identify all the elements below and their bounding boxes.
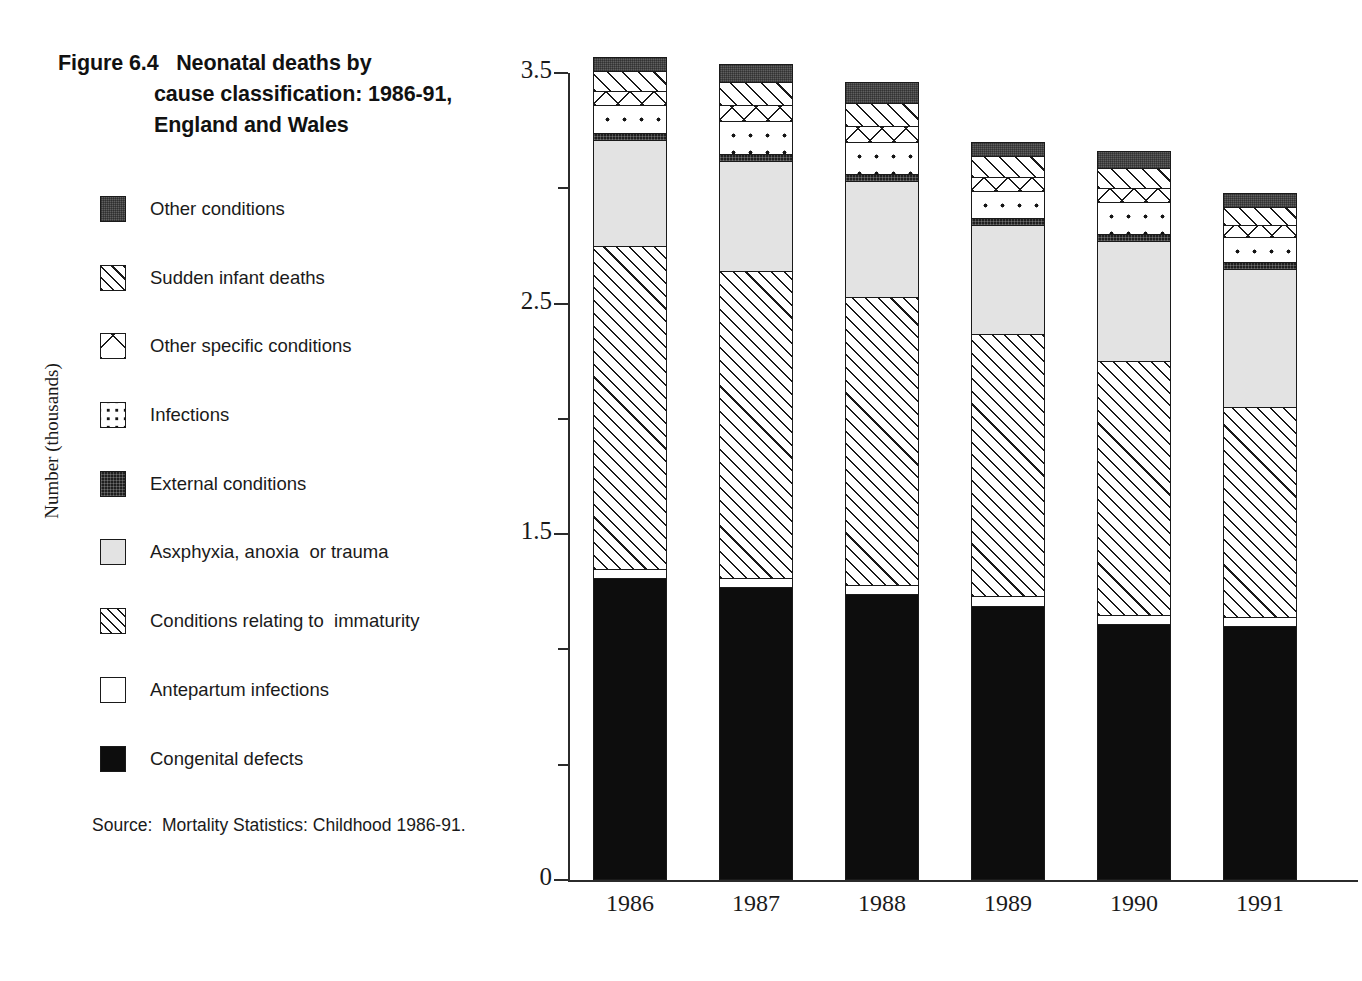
bar-segment[interactable] [971,218,1045,225]
bar-segment[interactable] [593,246,667,569]
bar-segment[interactable] [1223,262,1297,269]
bar-1990[interactable] [1097,151,1171,880]
bar-segment[interactable] [971,191,1045,219]
x-axis-tick-label-1990: 1990 [1064,890,1204,917]
bar-segment[interactable] [593,133,667,140]
x-axis-tick-label-1987: 1987 [686,890,826,917]
y-axis-tick-major [554,303,568,305]
bar-segment[interactable] [1097,151,1171,167]
bar-1987[interactable] [719,64,793,880]
x-axis-tick-label-1988: 1988 [812,890,952,917]
bar-segment[interactable] [845,82,919,103]
y-axis-tick-major [554,533,568,535]
bar-segment[interactable] [845,126,919,142]
bar-1989[interactable] [971,142,1045,880]
bar-segment[interactable] [719,121,793,153]
bar-segment[interactable] [971,596,1045,605]
bar-segment[interactable] [719,587,793,880]
x-axis-tick-label-1989: 1989 [938,890,1078,917]
bar-1991[interactable] [1223,193,1297,880]
chart-plot-area: Number (thousands) 01.52.53.5 1986198719… [0,0,1362,981]
y-axis-tick-minor [558,648,568,650]
y-axis-title: Number (thousands) [41,326,63,556]
bar-segment[interactable] [1223,237,1297,262]
bar-segment[interactable] [1097,168,1171,189]
x-axis-tick-label-1991: 1991 [1190,890,1330,917]
y-axis-tick-label: 2.5 [492,287,552,315]
bar-segment[interactable] [1223,407,1297,617]
bar-segment[interactable] [845,594,919,880]
bar-segment[interactable] [593,140,667,246]
bar-segment[interactable] [719,578,793,587]
bar-segment[interactable] [719,82,793,105]
bar-segment[interactable] [1097,624,1171,880]
y-axis-tick-minor [558,764,568,766]
bar-segment[interactable] [845,142,919,174]
y-axis-tick-label: 0 [492,863,552,891]
bar-1988[interactable] [845,82,919,880]
bar-segment[interactable] [845,297,919,585]
bar-segment[interactable] [593,105,667,133]
bar-segment[interactable] [971,334,1045,597]
bar-1986[interactable] [593,57,667,880]
y-axis-tick-minor [558,187,568,189]
bar-segment[interactable] [719,154,793,161]
y-axis-tick-label: 1.5 [492,517,552,545]
bar-segment[interactable] [1097,361,1171,615]
bar-segment[interactable] [845,585,919,594]
bar-segment[interactable] [593,578,667,880]
bar-segment[interactable] [1223,626,1297,880]
bar-segment[interactable] [719,64,793,82]
bar-segment[interactable] [593,57,667,71]
y-axis-tick-major [554,72,568,74]
bar-segment[interactable] [971,177,1045,191]
bar-segment[interactable] [593,71,667,92]
bar-segment[interactable] [971,606,1045,880]
bar-segment[interactable] [845,181,919,296]
bar-segment[interactable] [1223,617,1297,626]
bar-segment[interactable] [1097,202,1171,234]
bar-segment[interactable] [845,174,919,181]
bar-segment[interactable] [971,225,1045,333]
bar-segment[interactable] [719,161,793,272]
bar-segment[interactable] [1223,193,1297,207]
bar-segment[interactable] [719,271,793,578]
y-axis-tick-label: 3.5 [492,56,552,84]
bar-segment[interactable] [719,105,793,121]
bar-segment[interactable] [1223,207,1297,225]
bar-segment[interactable] [1097,241,1171,361]
bar-segment[interactable] [1097,188,1171,202]
bar-segment[interactable] [845,103,919,126]
bar-segment[interactable] [1097,615,1171,624]
bar-segment[interactable] [971,142,1045,156]
y-axis-tick-minor [558,418,568,420]
bar-segment[interactable] [971,156,1045,177]
bar-segment[interactable] [1223,225,1297,237]
x-axis-line [568,880,1358,882]
bar-segment[interactable] [1097,234,1171,241]
bar-segment[interactable] [1223,269,1297,407]
x-axis-tick-label-1986: 1986 [560,890,700,917]
bar-segment[interactable] [593,569,667,578]
y-axis-tick-major [554,879,568,881]
y-axis-line [568,73,570,881]
bar-segment[interactable] [593,91,667,105]
